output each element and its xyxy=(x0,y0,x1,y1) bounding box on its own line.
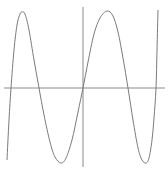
function-plot xyxy=(0,0,168,169)
